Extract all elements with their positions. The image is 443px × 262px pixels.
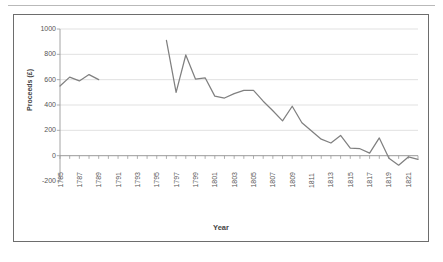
chart-frame: 10008006004002000-200 178517871789179117… [13,14,429,242]
x-tick-label: 1819 [385,172,392,188]
x-tick-label: 1787 [76,172,83,188]
x-tick-label: 1795 [153,172,160,188]
x-tick-label: 1789 [95,172,102,188]
x-tick-label: 1815 [347,172,354,188]
page-separator-rule [8,5,435,6]
x-tick-label: 1797 [173,172,180,188]
x-tick-label: 1793 [134,172,141,188]
x-tick-label: 1817 [366,172,373,188]
x-tick-label: 1785 [57,172,64,188]
x-axis-tick-labels: 1785178717891791179317951797179918011803… [14,15,428,241]
x-tick-label: 1805 [250,172,257,188]
x-tick-label: 1801 [211,172,218,188]
x-axis-title: Year [14,223,428,232]
x-tick-label: 1807 [269,172,276,188]
x-tick-label: 1813 [327,172,334,188]
chart-screenshot: 10008006004002000-200 178517871789179117… [0,0,443,262]
x-tick-label: 1821 [405,172,412,188]
x-tick-label: 1803 [231,172,238,188]
y-axis-title: Proceeds (£) [26,69,33,111]
x-tick-label: 1799 [192,172,199,188]
x-tick-label: 1809 [289,172,296,188]
x-tick-label: 1811 [308,173,315,188]
x-tick-label: 1791 [115,172,122,188]
